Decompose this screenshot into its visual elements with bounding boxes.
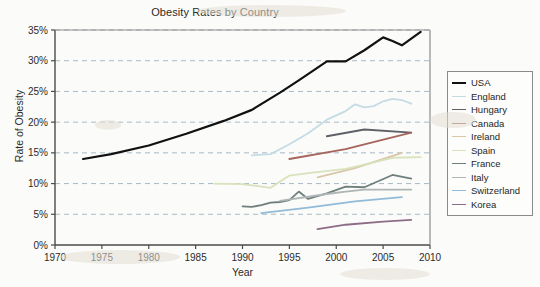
x-axis-tick-label: 2005 <box>372 252 395 263</box>
legend-swatch-switzerland-icon <box>452 190 466 191</box>
legend-item-switzerland[interactable]: Switzerland <box>452 184 529 198</box>
legend-item-usa[interactable]: USA <box>452 76 529 90</box>
legend-label: Italy <box>471 171 488 185</box>
legend-item-ireland[interactable]: Ireland <box>452 130 529 144</box>
y-axis-label: Rate of Obesity <box>13 81 25 171</box>
y-axis-tick-label: 15% <box>28 147 48 158</box>
legend-swatch-canada-icon <box>452 123 466 124</box>
y-axis-tick-label: 20% <box>28 117 48 128</box>
chart-legend: USAEnglandHungaryCanadaIrelandSpainFranc… <box>447 71 533 216</box>
y-axis-tick-label: 10% <box>28 178 48 189</box>
chart-figure: Obesity Rates by Country 0%5%10%15%20%25… <box>0 0 540 287</box>
x-axis-tick-label: 1975 <box>91 252 114 263</box>
legend-label: Spain <box>471 144 495 158</box>
legend-swatch-ireland-icon <box>452 136 466 137</box>
x-axis-tick-label: 1980 <box>138 252 161 263</box>
series-line-england <box>252 99 411 156</box>
x-axis-tick-label: 1990 <box>231 252 254 263</box>
legend-item-canada[interactable]: Canada <box>452 117 529 131</box>
legend-label: USA <box>471 76 491 90</box>
y-axis-tick-label: 35% <box>28 25 48 36</box>
legend-swatch-france-icon <box>452 163 466 164</box>
legend-item-england[interactable]: England <box>452 90 529 104</box>
legend-item-spain[interactable]: Spain <box>452 144 529 158</box>
x-axis-tick-label: 2010 <box>419 252 442 263</box>
x-axis-tick-label: 1985 <box>185 252 208 263</box>
legend-swatch-korea-icon <box>452 204 466 205</box>
y-axis-tick-label: 5% <box>34 209 49 220</box>
series-line-france <box>243 175 412 207</box>
y-axis-tick-label: 0% <box>34 240 49 251</box>
series-line-usa <box>83 32 421 159</box>
legend-swatch-england-icon <box>452 96 466 97</box>
legend-swatch-usa-icon <box>452 82 466 84</box>
legend-swatch-spain-icon <box>452 150 466 151</box>
x-axis-tick-label: 1970 <box>44 252 67 263</box>
legend-label: France <box>471 157 501 171</box>
legend-item-france[interactable]: France <box>452 157 529 171</box>
legend-item-italy[interactable]: Italy <box>452 171 529 185</box>
series-line-switzerland <box>261 197 402 213</box>
legend-label: Ireland <box>471 130 500 144</box>
legend-item-hungary[interactable]: Hungary <box>452 103 529 117</box>
legend-label: Hungary <box>471 103 507 117</box>
legend-label: Korea <box>471 198 496 212</box>
y-axis-tick-label: 30% <box>28 55 48 66</box>
legend-label: England <box>471 90 506 104</box>
x-axis-tick-label: 1995 <box>278 252 301 263</box>
legend-label: Canada <box>471 117 504 131</box>
legend-item-korea[interactable]: Korea <box>452 198 529 212</box>
x-axis-tick-label: 2000 <box>325 252 348 263</box>
series-line-korea <box>318 220 412 229</box>
legend-swatch-italy-icon <box>452 177 466 178</box>
legend-swatch-hungary-icon <box>452 109 466 110</box>
legend-label: Switzerland <box>471 184 520 198</box>
y-axis-tick-label: 25% <box>28 86 48 97</box>
x-axis-label: Year <box>55 266 430 278</box>
